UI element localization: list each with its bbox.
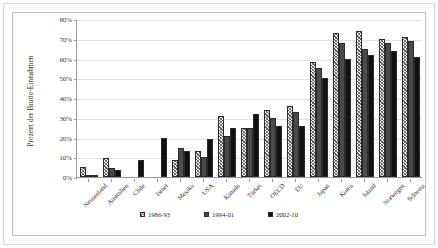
y-axis-title: Prozent der Brutto-Einnahmen <box>27 55 35 146</box>
bar-group <box>330 20 353 177</box>
x-tick-mark <box>203 179 204 182</box>
bar <box>414 57 420 177</box>
x-tick-mark <box>88 179 89 182</box>
bar <box>299 126 305 177</box>
legend-label: 1994-01 <box>212 211 234 218</box>
x-tick-mark <box>410 179 411 182</box>
bar-group <box>123 20 146 177</box>
x-axis-label: Schweiz <box>406 182 427 203</box>
bar-group <box>215 20 238 177</box>
x-axis-label: Island <box>361 182 377 198</box>
bar-group <box>353 20 376 177</box>
bar-group <box>100 20 123 177</box>
bar <box>207 139 213 177</box>
bar <box>184 151 190 177</box>
x-tick-mark <box>134 179 135 182</box>
y-tick-label: 50% <box>59 75 72 83</box>
legend-item: 1994-01 <box>204 211 234 218</box>
y-tick-label: 20% <box>59 135 72 143</box>
legend-item: 2002-10 <box>268 211 298 218</box>
x-tick-mark <box>157 179 158 182</box>
x-axis-label: USA <box>200 182 214 196</box>
bar-group <box>399 20 422 177</box>
bar-group <box>238 20 261 177</box>
bar <box>368 55 374 177</box>
bar <box>92 175 98 177</box>
bar <box>345 59 351 178</box>
y-tick-label: 70% <box>59 36 72 44</box>
x-tick-mark <box>295 179 296 182</box>
x-axis-label: Israel <box>154 182 169 197</box>
legend-swatch <box>140 212 145 217</box>
bar-group <box>376 20 399 177</box>
bar-group <box>146 20 169 177</box>
x-axis-label: Korea <box>338 182 354 198</box>
bar <box>161 138 167 178</box>
bar-group <box>77 20 100 177</box>
legend-item: 1986-93 <box>140 211 170 218</box>
x-tick-mark <box>226 179 227 182</box>
legend-label: 2002-10 <box>276 211 298 218</box>
bar-group <box>169 20 192 177</box>
y-tick-label: 30% <box>59 115 72 123</box>
bar-group <box>307 20 330 177</box>
legend-swatch <box>268 212 273 217</box>
chart-frame: Prozent der Brutto-Einnahmen 0%10%20%30%… <box>12 12 426 236</box>
bar-groups <box>77 20 422 177</box>
legend-swatch <box>204 212 209 217</box>
x-axis-label: Japan <box>315 182 330 197</box>
x-tick-mark <box>364 179 365 182</box>
y-tick-label: 10% <box>59 154 72 162</box>
x-tick-mark <box>341 179 342 182</box>
x-tick-mark <box>111 179 112 182</box>
legend-label: 1986-93 <box>148 211 170 218</box>
y-tick-label: 40% <box>59 95 72 103</box>
chart-page: Prozent der Brutto-Einnahmen 0%10%20%30%… <box>0 0 438 248</box>
bar <box>230 128 236 177</box>
bar <box>115 170 121 177</box>
bar <box>138 160 144 177</box>
bar <box>276 126 282 177</box>
x-tick-mark <box>387 179 388 182</box>
bar-group <box>192 20 215 177</box>
bar <box>322 78 328 177</box>
x-tick-mark <box>180 179 181 182</box>
bar-group <box>261 20 284 177</box>
x-axis-label: EU <box>293 182 304 193</box>
y-tick-label: 0% <box>63 174 72 182</box>
bar-group <box>284 20 307 177</box>
x-tick-mark <box>318 179 319 182</box>
plot-area: 0%10%20%30%40%50%60%70%80% <box>76 20 422 178</box>
y-tick-label: 60% <box>59 56 72 64</box>
y-tick-label: 80% <box>59 16 72 24</box>
x-tick-mark <box>249 179 250 182</box>
chart-legend: 1986-931994-012002-10 <box>13 211 425 218</box>
x-axis-label: Chile <box>131 182 146 197</box>
x-tick-mark <box>272 179 273 182</box>
bar <box>391 51 397 177</box>
bar <box>253 114 259 177</box>
